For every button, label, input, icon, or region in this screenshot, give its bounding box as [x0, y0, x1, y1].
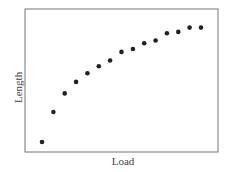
- plot-frame: [25, 9, 218, 152]
- scatter-chart: [0, 0, 229, 172]
- data-point: [108, 58, 113, 63]
- data-points: [40, 25, 204, 144]
- data-point: [74, 80, 79, 85]
- data-point: [40, 140, 45, 145]
- data-point: [119, 50, 124, 55]
- data-point: [199, 25, 204, 30]
- x-axis-label: Load: [100, 155, 146, 167]
- data-point: [176, 30, 181, 35]
- data-point: [131, 47, 136, 52]
- data-point: [165, 31, 170, 36]
- y-axis-label: Length: [6, 79, 30, 103]
- data-point: [97, 64, 102, 69]
- data-point: [142, 41, 147, 46]
- data-point: [51, 110, 56, 115]
- data-point: [62, 91, 67, 96]
- data-point: [85, 71, 90, 76]
- data-point: [153, 38, 158, 43]
- data-point: [187, 25, 192, 30]
